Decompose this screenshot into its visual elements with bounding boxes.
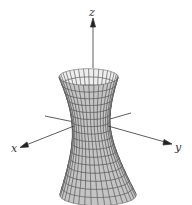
- mesh-cell: [82, 148, 86, 156]
- z-axis-label: z: [88, 6, 95, 19]
- mesh-cell: [97, 105, 101, 112]
- mesh-cell: [86, 112, 90, 119]
- mesh-cell: [75, 187, 81, 196]
- mesh-cell: [89, 92, 94, 99]
- mesh-cell: [90, 105, 94, 112]
- mesh-cell: [85, 197, 92, 205]
- mesh-cell: [89, 99, 93, 106]
- mesh-cell: [100, 118, 103, 126]
- mesh-cell: [82, 141, 86, 149]
- mesh-cell: [91, 181, 97, 189]
- x-axis-arrow-icon: [20, 142, 29, 148]
- mesh-cell: [94, 112, 98, 119]
- mesh-cell: [91, 197, 98, 205]
- mesh-cell: [89, 85, 94, 92]
- mesh-cell: [73, 195, 79, 204]
- mesh-cell: [96, 181, 102, 189]
- x-axis-negative: [110, 113, 131, 119]
- mesh-cell: [89, 69, 94, 77]
- mesh-cell: [80, 188, 86, 197]
- mesh-cell: [88, 134, 92, 142]
- mesh-cell: [89, 149, 93, 157]
- mesh-cell: [87, 119, 91, 126]
- mesh-cell: [90, 165, 95, 173]
- mesh-cell: [97, 98, 101, 105]
- x-axis: [26, 126, 74, 145]
- mesh-cell: [85, 99, 90, 106]
- mesh-cell: [79, 196, 85, 205]
- mesh-cell: [97, 197, 104, 205]
- mesh-cell: [97, 189, 104, 197]
- mesh-cell: [84, 92, 89, 99]
- mesh-cell: [90, 157, 95, 165]
- mesh-cell: [89, 141, 93, 149]
- mesh-cell: [91, 189, 97, 197]
- mesh-cell: [85, 189, 91, 198]
- hyperboloid-surface: [59, 69, 136, 205]
- mesh-cell: [81, 172, 86, 181]
- mesh-cell: [86, 165, 91, 173]
- y-axis-negative: [45, 116, 74, 122]
- hyperboloid-figure: z x y: [0, 0, 192, 205]
- mesh-cell: [90, 112, 94, 119]
- mesh-cell: [94, 77, 99, 85]
- mesh-cell: [77, 140, 80, 148]
- mesh-cell: [86, 173, 91, 181]
- mesh-cell: [100, 111, 103, 119]
- mesh-cell: [94, 69, 99, 77]
- mesh-cell: [94, 105, 98, 112]
- mesh-cell: [82, 156, 86, 164]
- y-axis: [108, 126, 165, 142]
- y-axis-arrow-icon: [163, 140, 172, 146]
- mesh-cell: [79, 156, 83, 165]
- x-axis-label: x: [11, 142, 18, 155]
- mesh-cell: [82, 164, 86, 173]
- mesh-cell: [79, 148, 82, 156]
- mesh-cell: [94, 92, 99, 99]
- mesh-cell: [97, 119, 100, 127]
- mesh-cell: [85, 181, 91, 190]
- mesh-cell: [77, 171, 82, 180]
- mesh-cell: [94, 119, 97, 126]
- mesh-cell: [89, 77, 94, 85]
- mesh-cell: [86, 105, 90, 112]
- mesh-cell: [103, 117, 106, 125]
- mesh-cell: [79, 140, 82, 148]
- mesh-cell: [88, 127, 92, 135]
- mesh-cell: [90, 173, 95, 181]
- z-axis-arrow-icon: [91, 18, 96, 27]
- mesh-cell: [97, 112, 100, 120]
- mesh-cell: [78, 163, 82, 172]
- mesh-cell: [94, 85, 99, 92]
- y-axis-label: y: [174, 141, 182, 154]
- mesh-cell: [80, 180, 85, 189]
- mesh-cell: [98, 91, 103, 98]
- mesh-cell: [86, 157, 90, 165]
- mesh-cell: [83, 85, 89, 92]
- mesh-cell: [94, 98, 98, 105]
